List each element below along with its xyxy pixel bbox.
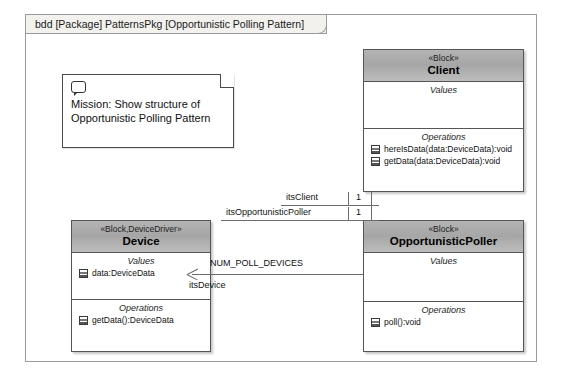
block-client[interactable]: «Block» Client Values Operations hereIsD…: [363, 49, 524, 192]
block-client-operations-title: Operations: [364, 129, 523, 144]
mission-note: Mission: Show structure of Opportunistic…: [62, 74, 234, 148]
association-end-its-poller-divider: [348, 207, 349, 220]
association-end-mult-its-client: 1: [356, 192, 361, 202]
operation-icon: [371, 145, 380, 154]
operation-label: hereIsData(data:DeviceData):void: [384, 144, 512, 154]
block-client-header: «Block» Client: [364, 50, 523, 82]
operation-row[interactable]: getData(data:DeviceData):void: [364, 156, 523, 168]
association-role-its-device: itsDevice: [189, 280, 226, 290]
block-opportunistic-poller[interactable]: «Block» OpportunisticPoller Values Opera…: [363, 220, 524, 352]
block-client-stereotype: «Block»: [366, 53, 521, 63]
operation-label: poll():void: [384, 317, 421, 327]
block-poller-name: OpportunisticPoller: [366, 234, 521, 248]
association-end-its-client-underline: [281, 205, 379, 206]
block-poller-header: «Block» OpportunisticPoller: [364, 221, 523, 253]
operation-icon: [79, 316, 88, 325]
diagram-frame-label: bdd [Package] PatternsPkg [Opportunistic…: [35, 18, 304, 30]
operation-row[interactable]: hereIsData(data:DeviceData):void: [364, 144, 523, 156]
block-device-stereotype: «Block,DeviceDriver»: [74, 224, 208, 234]
association-poller-device-line[interactable]: [192, 274, 363, 275]
value-label: data:DeviceData: [92, 268, 155, 278]
block-device-name: Device: [74, 234, 208, 248]
operation-icon: [371, 318, 380, 327]
block-device-values-title: Values: [72, 253, 210, 268]
block-client-name: Client: [366, 63, 521, 77]
diagram-frame-label-tab: bdd [Package] PatternsPkg [Opportunistic…: [26, 15, 327, 34]
block-poller-operations-title: Operations: [364, 302, 523, 317]
association-client-poller-line[interactable]: [371, 192, 372, 220]
block-client-values-title: Values: [364, 82, 523, 97]
association-end-role-its-client: itsClient: [286, 192, 318, 202]
operation-label: getData():DeviceData: [92, 315, 174, 325]
block-client-operations-compartment: Operations hereIsData(data:DeviceData):v…: [364, 129, 523, 168]
block-device-header: «Block,DeviceDriver» Device: [72, 221, 210, 253]
association-end-role-its-opportunistic-poller: itsOpportunisticPoller: [226, 207, 311, 217]
association-end-mult-its-opportunistic-poller: 1: [356, 207, 361, 217]
operation-row[interactable]: poll():void: [364, 317, 523, 329]
association-end-its-poller-underline: [221, 220, 379, 221]
mission-note-text: Mission: Show structure of Opportunistic…: [71, 97, 229, 125]
association-poller-device-arrowhead: [187, 268, 198, 280]
block-device-operations-compartment: Operations getData():DeviceData: [72, 300, 210, 327]
comment-icon: [71, 81, 86, 93]
block-poller-values-compartment: Values: [364, 253, 523, 302]
operation-row[interactable]: getData():DeviceData: [72, 315, 210, 327]
block-device-operations-title: Operations: [72, 300, 210, 315]
block-poller-stereotype: «Block»: [366, 224, 521, 234]
value-icon: [79, 269, 88, 278]
association-end-its-client-divider: [348, 192, 349, 205]
block-poller-operations-compartment: Operations poll():void: [364, 302, 523, 329]
operation-label: getData(data:DeviceData):void: [384, 156, 500, 166]
block-poller-values-title: Values: [364, 253, 523, 268]
operation-icon: [371, 157, 380, 166]
association-multiplicity-num-poll-devices: NUM_POLL_DEVICES: [210, 258, 303, 268]
note-fold-corner: [220, 74, 234, 88]
block-client-values-compartment: Values: [364, 82, 523, 129]
diagram-frame: bdd [Package] PatternsPkg [Opportunistic…: [25, 14, 537, 362]
